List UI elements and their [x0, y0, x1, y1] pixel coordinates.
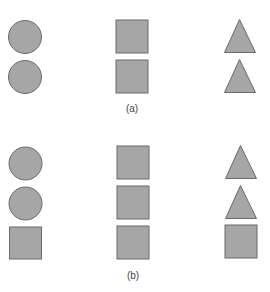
circle-shape	[9, 61, 42, 94]
panel-b	[9, 146, 257, 260]
square-shape	[117, 146, 149, 179]
triangle-shape	[226, 186, 257, 219]
figure-canvas	[0, 0, 270, 292]
triangle-shape	[225, 60, 256, 93]
square-shape	[117, 186, 149, 219]
triangle-shape	[226, 146, 257, 179]
circle-shape	[9, 21, 42, 54]
panel-a	[9, 20, 256, 94]
square-shape	[225, 225, 257, 258]
circle-shape	[9, 147, 42, 180]
shape-grid-figure: (a) (b)	[0, 0, 270, 292]
panel-b-label: (b)	[118, 271, 148, 281]
panel-a-label: (a)	[117, 104, 147, 114]
square-shape	[10, 227, 42, 259]
triangle-shape	[225, 20, 256, 53]
square-shape	[116, 60, 148, 93]
square-shape	[116, 20, 148, 53]
circle-shape	[9, 187, 42, 220]
square-shape	[117, 226, 149, 259]
